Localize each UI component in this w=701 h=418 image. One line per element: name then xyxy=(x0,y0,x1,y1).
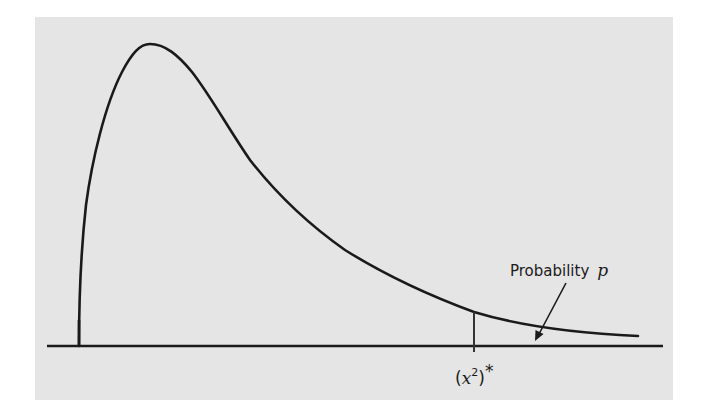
probability-annotation-text: Probability xyxy=(510,262,589,280)
chi-square-density-figure: (x2)* Probability p xyxy=(0,0,701,418)
critical-value-open-paren: ( xyxy=(455,368,462,388)
critical-value-close-paren: ) xyxy=(478,368,485,388)
critical-value-superscript: 2 xyxy=(471,366,478,379)
figure-background-panel xyxy=(35,17,673,400)
probability-annotation-symbol: p xyxy=(597,260,608,280)
critical-value-star: * xyxy=(485,361,494,381)
critical-value-variable: x xyxy=(462,368,472,388)
